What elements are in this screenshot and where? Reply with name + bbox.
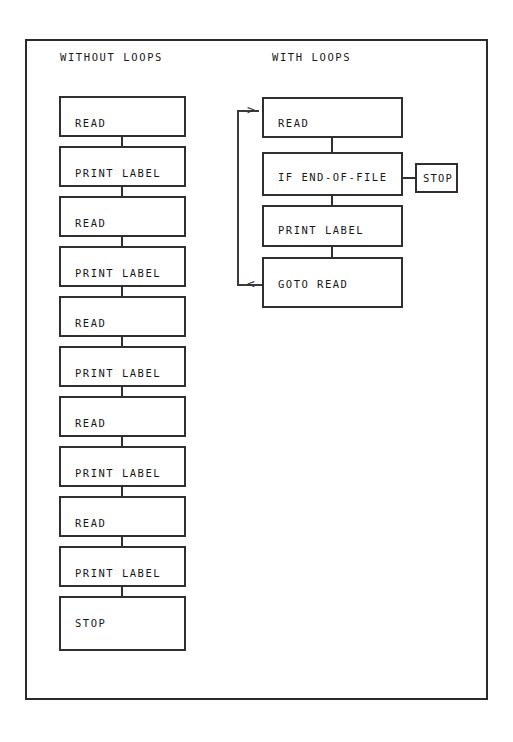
flow-box-print-label[interactable]: PRINT LABEL bbox=[59, 346, 186, 387]
connector-right-1 bbox=[331, 137, 333, 153]
flow-box-label: READ bbox=[278, 117, 309, 129]
flow-box-label: READ bbox=[75, 417, 106, 429]
flow-box-label: PRINT LABEL bbox=[75, 567, 161, 579]
connector-left-8 bbox=[121, 487, 123, 496]
connector-left-10 bbox=[121, 587, 123, 596]
loop-arrow-in-icon: > bbox=[247, 103, 255, 116]
flow-box-read[interactable]: READ bbox=[59, 296, 186, 337]
flow-box-label: READ bbox=[75, 217, 106, 229]
connector-left-2 bbox=[121, 187, 123, 196]
flow-box-label: GOTO READ bbox=[278, 278, 348, 290]
connector-left-6 bbox=[121, 387, 123, 396]
flow-box-print-label[interactable]: PRINT LABEL bbox=[59, 146, 186, 187]
connector-left-7 bbox=[121, 437, 123, 446]
flow-box-goto-read[interactable]: GOTO READ bbox=[262, 257, 403, 308]
flow-box-read[interactable]: READ bbox=[262, 97, 403, 138]
flow-box-print-label[interactable]: PRINT LABEL bbox=[262, 205, 403, 247]
connector-left-1 bbox=[121, 137, 123, 146]
flow-box-print-label[interactable]: PRINT LABEL bbox=[59, 546, 186, 587]
flow-box-label: READ bbox=[75, 517, 106, 529]
column-heading-with-loops: WITH LOOPS bbox=[272, 51, 351, 63]
flow-box-label: READ bbox=[75, 117, 106, 129]
connector-left-3 bbox=[121, 237, 123, 246]
flow-box-print-label[interactable]: PRINT LABEL bbox=[59, 246, 186, 287]
flow-box-label: IF END-OF-FILE bbox=[278, 171, 388, 183]
flow-box-label: READ bbox=[75, 317, 106, 329]
flow-box-label: PRINT LABEL bbox=[75, 467, 161, 479]
flow-box-read[interactable]: READ bbox=[59, 496, 186, 537]
flow-box-stop[interactable]: STOP bbox=[59, 596, 186, 651]
flow-box-label: PRINT LABEL bbox=[278, 224, 364, 236]
flow-box-label: PRINT LABEL bbox=[75, 267, 161, 279]
flow-box-label: PRINT LABEL bbox=[75, 167, 161, 179]
loop-arrow-out-icon: < bbox=[247, 277, 255, 290]
connector-left-9 bbox=[121, 537, 123, 546]
flow-box-read[interactable]: READ bbox=[59, 196, 186, 237]
flow-box-print-label[interactable]: PRINT LABEL bbox=[59, 446, 186, 487]
loop-back-line-vertical bbox=[237, 110, 239, 286]
flow-box-label: STOP bbox=[75, 617, 106, 629]
flow-box-label: STOP bbox=[423, 172, 453, 184]
flow-box-read[interactable]: READ bbox=[59, 96, 186, 137]
flow-box-read[interactable]: READ bbox=[59, 396, 186, 437]
connector-left-4 bbox=[121, 287, 123, 296]
flow-box-label: PRINT LABEL bbox=[75, 367, 161, 379]
connector-left-5 bbox=[121, 337, 123, 346]
column-heading-without-loops: WITHOUT LOOPS bbox=[60, 51, 163, 63]
flow-box-stop-branch[interactable]: STOP bbox=[415, 163, 458, 193]
flow-box-if-end-of-file[interactable]: IF END-OF-FILE bbox=[262, 152, 403, 196]
